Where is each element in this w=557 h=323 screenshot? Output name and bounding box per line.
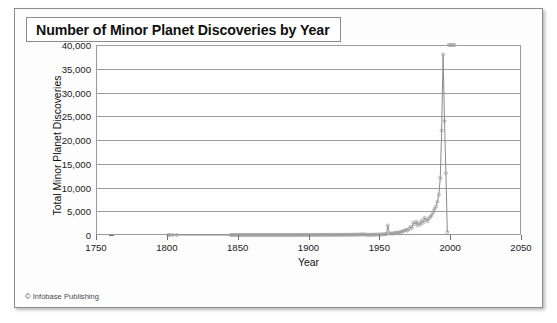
- figure-card: Number of Minor Planet Discoveries by Ye…: [14, 8, 543, 308]
- x-tick-label: 1850: [208, 242, 268, 253]
- x-tick-label: 2000: [420, 242, 480, 253]
- chart-title-box: Number of Minor Planet Discoveries by Ye…: [26, 17, 341, 42]
- y-tick-label: 0: [35, 230, 91, 241]
- x-tick-mark: [450, 235, 451, 240]
- x-tick-label: 1950: [349, 242, 409, 253]
- x-tick-mark: [521, 235, 522, 240]
- page-title: Number of Minor Planet Discoveries by Ye…: [36, 22, 330, 38]
- y-tick-label: 25,000: [35, 111, 91, 122]
- x-axis-label: Year: [96, 257, 521, 268]
- y-tick-label: 15,000: [35, 158, 91, 169]
- x-tick-mark: [379, 235, 380, 240]
- y-axis-label: Total Minor Planet Discoveries: [52, 51, 63, 241]
- y-tick-label: 20,000: [35, 135, 91, 146]
- x-tick-mark: [238, 235, 239, 240]
- credit-line: © Infobase Publishing: [25, 292, 99, 301]
- x-tick-label: 2050: [491, 242, 551, 253]
- x-tick-mark: [167, 235, 168, 240]
- series-markers: [167, 44, 456, 237]
- y-tick-label: 30,000: [35, 87, 91, 98]
- y-tick-label: 35,000: [35, 63, 91, 74]
- y-tick-label: 5,000: [35, 206, 91, 217]
- x-tick-label: 1750: [66, 242, 126, 253]
- y-tick-label: 10,000: [35, 182, 91, 193]
- x-axis-ticks: 1750180018501900195020002050: [96, 235, 521, 259]
- x-tick-mark: [309, 235, 310, 240]
- x-tick-label: 1900: [279, 242, 339, 253]
- x-tick-label: 1800: [137, 242, 197, 253]
- x-tick-mark: [96, 235, 97, 240]
- series-line: [168, 55, 447, 236]
- data-series-layer: [96, 45, 521, 235]
- y-tick-label: 40,000: [35, 40, 91, 51]
